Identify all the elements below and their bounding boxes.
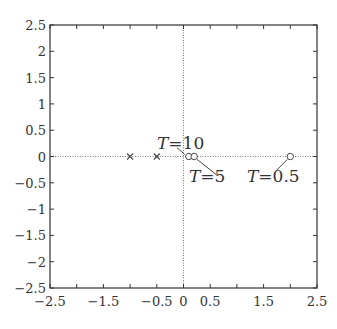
x-tick-label: 0: [179, 294, 187, 309]
annotation-t05: T=0.5: [247, 166, 300, 186]
x-tick-label: 1.5: [253, 294, 274, 309]
y-tick-label: −2: [27, 255, 46, 270]
zero-marker-o-icon: [191, 153, 197, 159]
x-tick-label: −0.5: [141, 294, 173, 309]
annotation-t5: T=5: [189, 166, 225, 186]
plot-area: −2.5−1.5−0.500.51.52.52.521.510.50−0.5−1…: [14, 18, 327, 309]
pole-marker-x-icon: [154, 154, 160, 160]
x-tick-label: 2.5: [307, 294, 328, 309]
zero-marker-o-icon: [287, 153, 293, 159]
y-tick-label: 1.5: [25, 71, 46, 86]
y-tick-label: 0: [38, 150, 46, 165]
x-tick-label: −2.5: [34, 294, 66, 309]
y-tick-label: 2.5: [25, 18, 46, 33]
y-tick-label: −2.5: [14, 281, 46, 296]
x-tick-label: −1.5: [88, 294, 120, 309]
annotation-t10: T=10: [157, 133, 204, 153]
y-tick-label: 2: [38, 44, 46, 59]
y-tick-label: −1: [27, 202, 46, 217]
y-tick-label: 1: [38, 97, 46, 112]
y-tick-label: −1.5: [14, 228, 46, 243]
y-tick-label: −0.5: [14, 176, 46, 191]
pole-zero-plot: −2.5−1.5−0.500.51.52.52.521.510.50−0.5−1…: [0, 0, 337, 329]
y-tick-label: 0.5: [25, 123, 46, 138]
x-tick-label: 0.5: [200, 294, 221, 309]
